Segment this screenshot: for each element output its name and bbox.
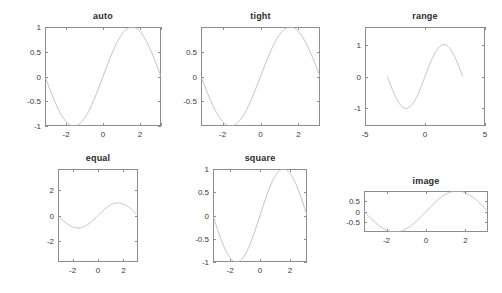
y-tick-mark bbox=[485, 222, 488, 223]
y-tick-mark bbox=[485, 201, 488, 202]
subplot-title-image: image bbox=[364, 176, 488, 186]
data-line-sin bbox=[364, 191, 488, 232]
curve-image bbox=[364, 191, 488, 232]
matlab-figure-canvas: auto-202-1-0.500.51tight-202-0.500.5rang… bbox=[0, 0, 502, 293]
y-tick-label: 0.5 bbox=[338, 197, 360, 206]
y-tick-label: -0.5 bbox=[338, 217, 360, 226]
y-tick-mark bbox=[364, 201, 367, 202]
x-tick-mark bbox=[465, 191, 466, 194]
y-tick-mark bbox=[485, 212, 488, 213]
x-tick-label: 0 bbox=[424, 236, 428, 245]
x-tick-mark bbox=[387, 191, 388, 194]
y-tick-label: 0 bbox=[338, 207, 360, 216]
x-tick-mark bbox=[465, 229, 466, 232]
x-tick-mark bbox=[387, 229, 388, 232]
subplot-image: image-202-0.500.5 bbox=[0, 0, 502, 293]
x-tick-label: 2 bbox=[463, 236, 467, 245]
y-tick-mark bbox=[364, 222, 367, 223]
y-tick-mark bbox=[364, 212, 367, 213]
x-tick-mark bbox=[426, 229, 427, 232]
axes-image[interactable] bbox=[364, 191, 488, 232]
x-tick-label: -2 bbox=[383, 236, 390, 245]
x-tick-mark bbox=[426, 191, 427, 194]
